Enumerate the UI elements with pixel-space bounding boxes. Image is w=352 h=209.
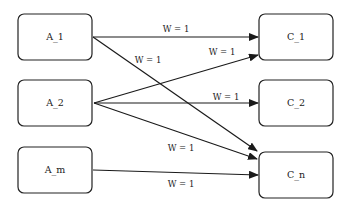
- edge-a2-to-cn: W = 1: [94, 103, 257, 159]
- node-a2: A_2: [18, 80, 92, 126]
- nodes-layer: A_1A_2A_mC_1C_2C_n: [18, 14, 333, 198]
- node-c1: C_1: [259, 14, 333, 60]
- node-cn: C_n: [259, 152, 333, 198]
- edges-layer: W = 1W = 1W = 1W = 1W = 1W = 1: [93, 24, 258, 189]
- node-label: A_1: [45, 31, 64, 43]
- edge-a1-to-c1: W = 1: [93, 24, 258, 38]
- node-c2: C_2: [259, 80, 333, 126]
- edge-weight-label: W = 1: [163, 24, 190, 34]
- edge-weight-label: W = 1: [213, 92, 240, 102]
- arrow-line: [93, 170, 258, 175]
- node-am: A_m: [18, 147, 92, 193]
- node-label: C_2: [287, 97, 305, 109]
- edge-weight-label: W = 1: [168, 179, 195, 189]
- node-a1: A_1: [18, 14, 92, 60]
- node-label: A_2: [45, 97, 64, 109]
- bipartite-graph-diagram: W = 1W = 1W = 1W = 1W = 1W = 1 A_1A_2A_m…: [0, 0, 352, 209]
- edge-weight-label: W = 1: [135, 55, 162, 65]
- node-label: C_n: [287, 169, 305, 181]
- edge-weight-label: W = 1: [168, 143, 195, 153]
- node-label: C_1: [287, 31, 305, 43]
- edge-am-to-cn: W = 1: [93, 170, 258, 189]
- node-label: A_m: [44, 164, 66, 176]
- edge-a2-to-c2: W = 1: [94, 92, 258, 104]
- edge-weight-label: W = 1: [209, 47, 236, 57]
